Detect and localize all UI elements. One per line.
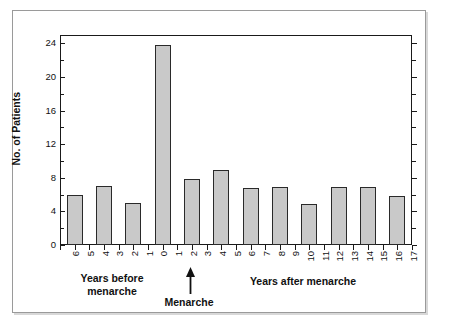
y-tick-major-20: [60, 77, 65, 78]
bar-2-1: [125, 203, 141, 245]
y-tick-minor-18: [60, 94, 64, 95]
y-tick-right-major-12: [412, 144, 417, 145]
y-tick-right-minor-10: [412, 161, 416, 162]
y-tick-label-16: 16: [45, 106, 56, 115]
annotation-years-before-line1: Years before: [80, 272, 143, 284]
y-tick-minor-2: [60, 228, 64, 229]
x-tick-label-11: 5: [233, 251, 242, 256]
x-tick-label-16: 10: [306, 251, 315, 262]
x-tick-label-2: 4: [101, 251, 110, 256]
y-tick-right-minor-6: [412, 195, 416, 196]
bar-10-11: [301, 204, 317, 245]
bar-6-5: [67, 195, 83, 245]
y-tick-right-minor-22: [412, 60, 416, 61]
bar-0-1: [155, 45, 171, 245]
menarche-arrow-icon: [186, 267, 195, 294]
x-tick-label-17: 11: [321, 251, 330, 261]
y-tick-right-minor-2: [412, 228, 416, 229]
x-tick-24: [412, 245, 413, 250]
y-tick-right-major-24: [412, 43, 417, 44]
figure-container: No. of Patients 04812162024 654321012345…: [0, 0, 450, 335]
x-tick-23: [397, 245, 398, 250]
bar-2-3: [184, 179, 200, 245]
y-tick-right-minor-14: [412, 127, 416, 128]
bar-6-7: [243, 188, 259, 245]
bar-16-17: [389, 196, 405, 245]
x-tick-label-10: 4: [218, 251, 227, 256]
x-tick-4: [119, 245, 120, 250]
x-tick-label-13: 7: [262, 251, 271, 256]
x-tick-label-6: 0: [159, 251, 168, 256]
x-tick-label-20: 14: [365, 251, 374, 262]
x-tick-18: [324, 245, 325, 250]
x-tick-label-8: 2: [189, 251, 198, 256]
x-tick-1: [75, 245, 76, 250]
y-tick-right-major-8: [412, 178, 417, 179]
x-tick-label-21: 15: [379, 251, 388, 262]
y-tick-major-12: [60, 144, 65, 145]
x-tick-11: [221, 245, 222, 250]
y-tick-major-24: [60, 43, 65, 44]
x-tick-21: [368, 245, 369, 250]
x-tick-14: [265, 245, 266, 250]
x-tick-12: [236, 245, 237, 250]
y-tick-major-8: [60, 178, 65, 179]
x-tick-3: [104, 245, 105, 250]
y-tick-minor-10: [60, 161, 64, 162]
x-tick-label-3: 3: [115, 251, 124, 256]
x-tick-20: [353, 245, 354, 250]
x-tick-label-19: 13: [350, 251, 359, 262]
x-tick-label-1: 5: [86, 251, 95, 256]
y-tick-right-minor-18: [412, 94, 416, 95]
x-tick-15: [280, 245, 281, 250]
x-tick-13: [251, 245, 252, 250]
y-tick-right-major-4: [412, 211, 417, 212]
y-tick-major-4: [60, 211, 65, 212]
x-tick-5: [133, 245, 134, 250]
x-tick-label-22: 16: [394, 251, 403, 262]
x-tick-label-7: 1: [174, 251, 183, 256]
y-tick-label-24: 24: [45, 38, 56, 47]
x-tick-label-4: 2: [130, 251, 139, 256]
y-tick-label-20: 20: [45, 72, 56, 81]
y-tick-label-8: 8: [51, 173, 56, 182]
annotation-years-before: Years before menarche: [64, 272, 160, 297]
x-tick-label-12: 6: [247, 251, 256, 256]
x-tick-label-15: 9: [291, 251, 300, 256]
x-tick-10: [207, 245, 208, 250]
bar-4-3: [96, 186, 112, 245]
y-tick-right-major-20: [412, 77, 417, 78]
x-tick-label-5: 1: [145, 251, 154, 256]
bar-12-13: [331, 187, 347, 245]
y-tick-label-0: 0: [51, 240, 56, 249]
x-tick-label-18: 12: [335, 251, 344, 262]
y-axis-title: No. of Patients: [10, 92, 22, 166]
x-tick-9: [192, 245, 193, 250]
x-tick-22: [383, 245, 384, 250]
x-tick-label-0: 6: [71, 251, 80, 256]
y-tick-right-major-16: [412, 111, 417, 112]
bar-series: [60, 35, 412, 245]
x-tick-19: [339, 245, 340, 250]
y-tick-label-4: 4: [51, 206, 56, 215]
x-tick-label-9: 3: [203, 251, 212, 256]
y-tick-label-12: 12: [45, 139, 56, 148]
annotation-years-before-line2: menarche: [87, 285, 137, 297]
annotation-menarche: Menarche: [152, 296, 226, 308]
x-tick-8: [177, 245, 178, 250]
y-tick-major-16: [60, 111, 65, 112]
x-tick-6: [148, 245, 149, 250]
x-tick-label-14: 8: [277, 251, 286, 256]
bar-4-5: [213, 170, 229, 245]
y-tick-labels: 04812162024: [28, 35, 56, 245]
bar-14-15: [360, 187, 376, 245]
bar-8-9: [272, 187, 288, 245]
x-tick-label-23: 17: [409, 251, 418, 262]
y-tick-minor-6: [60, 195, 64, 196]
y-tick-minor-14: [60, 127, 64, 128]
x-tick-17: [309, 245, 310, 250]
x-tick-16: [295, 245, 296, 250]
annotation-years-after: Years after menarche: [228, 275, 378, 287]
y-tick-minor-22: [60, 60, 64, 61]
x-tick-0: [60, 245, 61, 250]
